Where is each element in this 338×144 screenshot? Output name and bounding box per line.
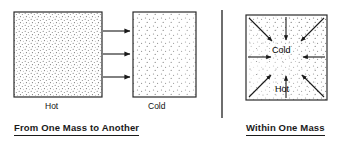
- cold-region-label: Cold: [272, 45, 291, 55]
- heat-transfer-figure: Hot Cold Cold Hot From One Mass to Anoth…: [0, 0, 338, 144]
- cold-body-box: [133, 12, 196, 97]
- hot-body-box: [14, 12, 102, 97]
- caption-from-one-mass-to-another: From One Mass to Another: [14, 122, 139, 136]
- hot-body-label: Hot: [45, 101, 58, 111]
- caption-within-one-mass: Within One Mass: [246, 122, 325, 136]
- hot-region-label: Hot: [275, 84, 289, 94]
- cold-body-label: Cold: [148, 101, 165, 111]
